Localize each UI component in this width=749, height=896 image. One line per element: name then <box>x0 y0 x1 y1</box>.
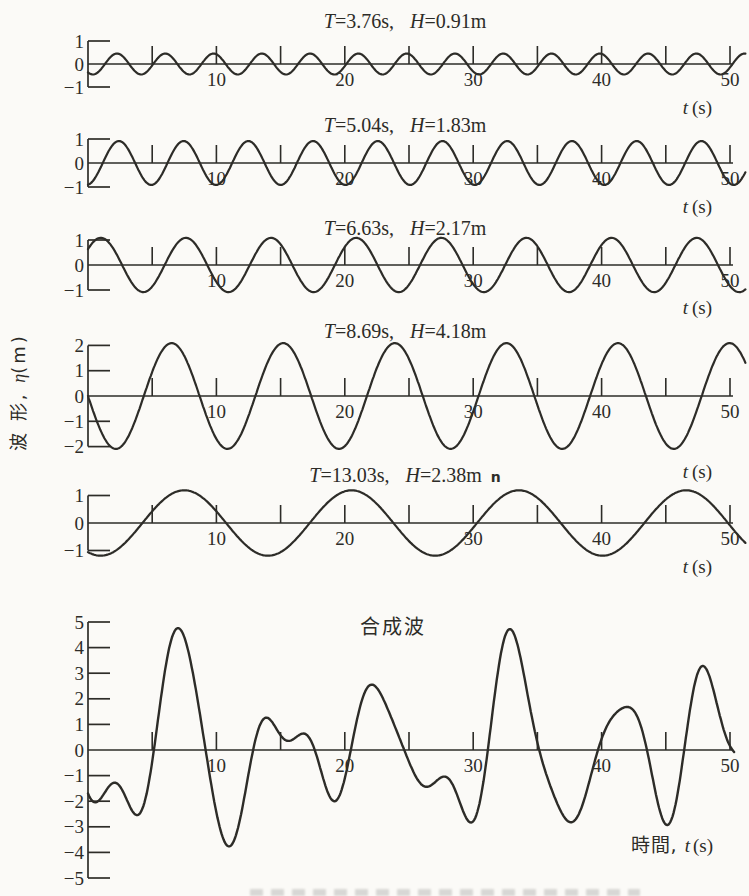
x-tick-label-component-4: 10 <box>207 401 226 422</box>
composite-x-axis-label: 時間, t(s) <box>631 830 713 857</box>
x-tick-label-composite-wave: 50 <box>721 755 740 776</box>
time-unit: (s) <box>693 835 713 856</box>
x-tick-label-component-5: 30 <box>464 528 483 549</box>
period-value: =5.04s, <box>335 114 394 136</box>
period-symbol: T <box>324 320 335 342</box>
y-tick-label-component-4: −1 <box>64 411 84 432</box>
plot-title-component-2: T=5.04s,H=1.83m <box>88 114 722 137</box>
height-symbol: H <box>410 10 424 32</box>
y-tick-label-composite-wave: −1 <box>64 765 84 786</box>
period-symbol: T <box>309 464 320 486</box>
height-symbol: H <box>410 320 424 342</box>
time-var: t <box>685 835 690 856</box>
y-tick-label-composite-wave: −5 <box>64 868 84 889</box>
composite-title: 合成波 <box>88 611 698 640</box>
y-tick-label-component-1: 1 <box>75 31 85 52</box>
height-symbol: H <box>410 217 424 239</box>
x-axis-unit-label-component-3: t(s) <box>683 297 712 319</box>
y-tick-label-composite-wave: 3 <box>75 663 85 684</box>
cropped-caption-fragment <box>250 889 640 896</box>
time-var: t <box>683 556 688 577</box>
x-tick-label-component-5: 20 <box>335 528 354 549</box>
y-tick-label-component-4: 0 <box>75 386 85 407</box>
y-tick-label-component-5: 0 <box>75 513 85 534</box>
height-value: =1.83m <box>424 114 486 136</box>
y-tick-label-composite-wave: −2 <box>64 791 84 812</box>
y-tick-label-component-2: 0 <box>75 153 85 174</box>
y-tick-label-component-1: −1 <box>64 77 84 98</box>
time-var: t <box>683 196 688 217</box>
wave-superposition-figure: 波 形, η(m) 10−1102030405010−1102030405010… <box>0 0 749 896</box>
height-value: =2.38m <box>420 464 482 486</box>
time-unit: (s) <box>692 556 712 577</box>
plot-title-component-3: T=6.63s,H=2.17m <box>88 217 722 240</box>
x-tick-label-component-5: 10 <box>207 528 226 549</box>
y-tick-label-composite-wave: 1 <box>75 714 85 735</box>
period-value: =3.76s, <box>335 10 394 32</box>
y-tick-label-component-3: 1 <box>75 230 85 251</box>
x-tick-label-component-4: 20 <box>335 401 354 422</box>
y-tick-label-composite-wave: 4 <box>75 637 85 658</box>
time-var: t <box>683 297 688 318</box>
x-tick-label-component-2: 50 <box>721 168 740 189</box>
height-value: =4.18m <box>424 320 486 342</box>
print-artifact: n <box>491 469 501 485</box>
y-tick-label-component-2: −1 <box>64 177 84 198</box>
height-symbol: H <box>405 464 419 486</box>
y-tick-label-component-4: 1 <box>75 360 85 381</box>
y-tick-label-composite-wave: 5 <box>75 612 85 633</box>
height-symbol: H <box>410 114 424 136</box>
time-unit: (s) <box>692 196 712 217</box>
plot-title-component-4: T=8.69s,H=4.18m <box>88 320 722 343</box>
y-tick-label-composite-wave: −3 <box>64 816 84 837</box>
x-tick-label-composite-wave: 30 <box>464 755 483 776</box>
period-symbol: T <box>324 114 335 136</box>
y-tick-label-component-4: −2 <box>64 436 84 457</box>
y-tick-label-component-2: 1 <box>75 129 85 150</box>
period-symbol: T <box>324 10 335 32</box>
x-tick-label-component-1: 50 <box>721 69 740 90</box>
x-tick-label-component-3: 20 <box>335 270 354 291</box>
y-tick-label-composite-wave: −4 <box>64 842 85 863</box>
period-value: =8.69s, <box>335 320 394 342</box>
x-tick-label-composite-wave: 20 <box>335 755 354 776</box>
plot-title-component-5: T=13.03s,H=2.38mn <box>88 464 722 487</box>
x-tick-label-component-1: 40 <box>592 69 611 90</box>
x-tick-label-component-3: 40 <box>592 270 611 291</box>
x-tick-label-component-4: 40 <box>592 401 611 422</box>
plot-title-component-1: T=3.76s,H=0.91m <box>88 10 722 33</box>
y-tick-label-component-5: −1 <box>64 540 84 561</box>
height-value: =0.91m <box>424 10 486 32</box>
y-tick-label-component-3: 0 <box>75 255 85 276</box>
height-value: =2.17m <box>424 217 486 239</box>
x-tick-label-component-5: 50 <box>721 528 740 549</box>
x-tick-label-component-4: 50 <box>721 401 740 422</box>
x-tick-label-component-5: 40 <box>592 528 611 549</box>
y-tick-label-component-1: 0 <box>75 54 85 75</box>
y-tick-label-component-5: 1 <box>75 485 85 506</box>
period-value: =13.03s, <box>320 464 389 486</box>
x-tick-label-component-1: 10 <box>207 69 226 90</box>
y-tick-label-composite-wave: 2 <box>75 688 85 709</box>
y-tick-label-component-4: 2 <box>75 335 85 356</box>
time-unit: (s) <box>692 297 712 318</box>
y-tick-label-component-3: −1 <box>64 280 84 301</box>
period-symbol: T <box>324 217 335 239</box>
y-tick-label-composite-wave: 0 <box>75 740 85 761</box>
x-axis-unit-label-component-2: t(s) <box>683 196 712 218</box>
period-value: =6.63s, <box>335 217 394 239</box>
time-label-cjk: 時間, <box>631 834 685 856</box>
composite-curve <box>88 628 734 846</box>
x-axis-unit-label-component-5: t(s) <box>683 556 712 578</box>
